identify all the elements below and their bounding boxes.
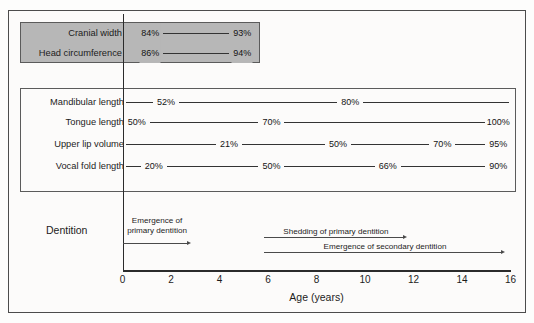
series-segment	[163, 53, 229, 54]
unshaded-measure-group: Mandibular length 52%80% Tongue length 5…	[20, 88, 516, 192]
data-label-mandibular-length-52: 52%	[155, 92, 176, 112]
dentition-event-label-2: Shedding of primary dentition	[264, 227, 407, 237]
data-label-upper-lip-volume-50: 50%	[328, 134, 349, 154]
series-track-mandibular-length: 52%80%	[21, 92, 515, 112]
series-row-mandibular-length: Mandibular length 52%80%	[21, 92, 515, 112]
series-segment	[163, 33, 229, 34]
data-label-head-circumference-86: 86%	[140, 43, 161, 63]
dentition-arrow-line-3	[264, 252, 501, 253]
x-tick-4: 4	[217, 274, 223, 285]
data-label-upper-lip-volume-70: 70%	[432, 134, 453, 154]
dentition-row-label: Dentition	[46, 224, 87, 236]
series-segment	[150, 122, 259, 123]
series-row-head-circumference: Head circumference 86%94%	[21, 43, 259, 63]
dentition-event-label-3: Emergence of secondary dentition	[264, 242, 505, 252]
x-tick-6: 6	[265, 274, 271, 285]
x-axis-line	[123, 270, 511, 272]
series-segment	[284, 122, 485, 123]
data-label-mandibular-length-80: 80%	[340, 92, 361, 112]
series-track-cranial-width: 84%93%	[21, 23, 259, 43]
series-track-tongue-length: 50%70%100%	[21, 112, 515, 132]
series-track-vocal-fold-length: 20%50%66%90%	[21, 156, 515, 176]
series-segment	[242, 144, 325, 145]
series-segment	[126, 166, 141, 167]
data-label-cranial-width-84: 84%	[140, 23, 161, 43]
data-label-upper-lip-volume-21: 21%	[218, 134, 239, 154]
x-tick-8: 8	[314, 274, 320, 285]
data-label-tongue-length-100: 100%	[485, 112, 511, 132]
dentition-arrow-head-2	[403, 235, 407, 239]
series-row-upper-lip-volume: Upper lip volume 21%50%70%95%	[21, 134, 515, 154]
x-axis-title: Age (years)	[123, 291, 511, 303]
series-segment	[126, 102, 153, 103]
series-row-cranial-width: Cranial width 84%93%	[21, 23, 259, 43]
dentition-event-label-1: Emergence ofprimary dentition	[123, 216, 192, 236]
series-segment	[351, 144, 429, 145]
x-tick-12: 12	[408, 274, 419, 285]
data-label-tongue-length-50: 50%	[126, 112, 147, 132]
series-row-tongue-length: Tongue length 50%70%100%	[21, 112, 515, 132]
data-label-vocal-fold-length-66: 66%	[377, 156, 398, 176]
x-tick-2: 2	[168, 274, 174, 285]
series-segment	[179, 102, 337, 103]
data-label-vocal-fold-length-90: 90%	[488, 156, 509, 176]
data-label-upper-lip-volume-95: 95%	[488, 134, 509, 154]
data-label-cranial-width-93: 93%	[232, 23, 253, 43]
dentition-arrow-line-1	[123, 243, 188, 244]
series-segment	[401, 166, 485, 167]
data-label-head-circumference-94: 94%	[232, 43, 253, 63]
series-segment	[363, 102, 509, 103]
data-label-vocal-fold-length-50: 50%	[261, 156, 282, 176]
series-row-vocal-fold-length: Vocal fold length 20%50%66%90%	[21, 156, 515, 176]
series-segment	[284, 166, 374, 167]
growth-chart-figure: Cranial width 84%93% Head circumference …	[0, 0, 534, 323]
series-segment	[455, 144, 485, 145]
x-tick-14: 14	[456, 274, 467, 285]
series-segment	[126, 144, 216, 145]
x-tick-0: 0	[120, 274, 126, 285]
dentition-arrow-head-3	[501, 250, 505, 254]
x-tick-10: 10	[359, 274, 370, 285]
data-label-vocal-fold-length-20: 20%	[143, 156, 164, 176]
dentition-arrow-head-1	[187, 241, 191, 245]
dentition-arrow-line-2	[264, 237, 403, 238]
series-track-head-circumference: 86%94%	[21, 43, 259, 63]
series-track-upper-lip-volume: 21%50%70%95%	[21, 134, 515, 154]
data-label-tongue-length-70: 70%	[261, 112, 282, 132]
series-segment	[167, 166, 259, 167]
shaded-measure-group: Cranial width 84%93% Head circumference …	[20, 22, 260, 63]
x-tick-16: 16	[505, 274, 516, 285]
